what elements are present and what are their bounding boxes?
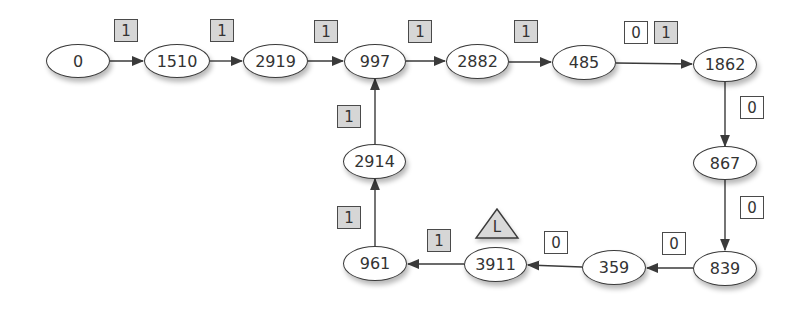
node-1510: 1510	[144, 44, 210, 78]
bit-value: 1	[661, 24, 671, 42]
node-label: 2914	[354, 152, 395, 171]
edge-359-3911	[528, 265, 582, 267]
bit-value: 1	[415, 23, 425, 41]
node-label: 3911	[475, 255, 516, 274]
node-485: 485	[552, 45, 616, 80]
edge-485-1862	[616, 63, 692, 64]
node-1862: 1862	[693, 47, 757, 82]
node-label: 961	[360, 254, 391, 273]
node-label: 997	[360, 52, 391, 71]
node-label: 839	[710, 259, 741, 278]
edge-bit-badge: 0	[662, 232, 686, 255]
node-961: 961	[343, 246, 407, 281]
edge-bit-badge: 1	[337, 206, 361, 229]
marker-label-text: L	[493, 218, 501, 236]
node-label: 2919	[255, 52, 296, 71]
node-867: 867	[693, 146, 757, 180]
edge-bit-badge: 1	[408, 20, 432, 43]
bit-value: 0	[631, 24, 641, 42]
node-839: 839	[693, 251, 757, 286]
edge-bit-badge: 1	[210, 19, 234, 42]
bit-value: 0	[747, 199, 757, 217]
node-997: 997	[344, 44, 406, 79]
bit-value: 1	[344, 209, 354, 227]
edge-bit-badge: 0	[740, 196, 764, 219]
bit-value: 0	[747, 99, 757, 117]
node-label: 0	[73, 52, 83, 71]
node-label: 867	[710, 154, 741, 173]
bit-value: 1	[521, 23, 531, 41]
node-label: 2882	[457, 52, 498, 71]
node-label: 359	[599, 258, 630, 277]
node-label: 485	[569, 53, 600, 72]
bit-value: 1	[121, 22, 131, 40]
bit-value: 1	[434, 232, 444, 250]
node-2882: 2882	[446, 44, 509, 79]
edge-bit-badge: 1	[114, 19, 138, 42]
edge-bit-badge: 0	[544, 231, 568, 254]
node-3911: 3911	[464, 247, 527, 282]
node-0: 0	[46, 44, 110, 78]
node-label: 1862	[705, 55, 746, 74]
node-359: 359	[582, 250, 646, 285]
edge-bit-badge: 1	[314, 20, 338, 43]
marker-triangle-label: L	[476, 218, 518, 236]
bit-value: 0	[669, 235, 679, 253]
edge-bit-badge: 1	[427, 229, 451, 252]
edge-bit-badge: 1	[514, 20, 538, 43]
bit-value: 1	[217, 22, 227, 40]
bit-value: 1	[321, 23, 331, 41]
bit-value: 0	[551, 234, 561, 252]
edge-bit-badge: 0	[624, 21, 648, 44]
node-label: 1510	[157, 52, 198, 71]
node-2914: 2914	[343, 144, 406, 179]
edge-bit-badge: 0	[740, 96, 764, 119]
edge-bit-badge: 1	[654, 21, 678, 44]
bit-value: 1	[344, 108, 354, 126]
edge-bit-badge: 1	[337, 105, 361, 128]
node-2919: 2919	[243, 44, 308, 78]
cycle-diagram: 0 1510 2919 997 2882 485 1862 867 839 35…	[0, 0, 806, 314]
